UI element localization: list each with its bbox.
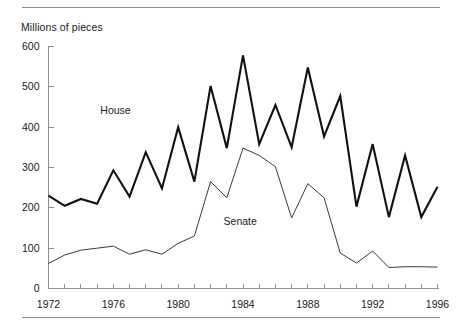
series-label-house: House [100,104,131,116]
y-tick-label-300: 300 [22,161,40,173]
x-tick-label-1976: 1976 [102,298,126,310]
y-tick-label-400: 400 [22,121,40,133]
x-tick-label-1984: 1984 [231,298,255,310]
x-tick-label-1988: 1988 [296,298,320,310]
y-tick-label-100: 100 [22,242,40,254]
y-tick-label-600: 600 [22,40,40,52]
series-label-senate: Senate [224,215,257,227]
y-tick-label-500: 500 [22,80,40,92]
series-line-house [49,55,438,217]
x-tick-label-1992: 1992 [361,298,385,310]
x-tick-label-1972: 1972 [37,298,61,310]
axes-group: 0100200300400500600197219761980198419881… [22,40,449,309]
y-tick-label-200: 200 [22,201,40,213]
x-tick-label-1996: 1996 [426,298,450,310]
line-chart-svg: 0100200300400500600197219761980198419881… [0,0,463,331]
x-tick-label-1980: 1980 [166,298,190,310]
series-group [49,55,438,267]
series-line-senate [49,148,438,267]
y-tick-label-0: 0 [34,282,40,294]
chart-page: Millions of pieces 010020030040050060019… [0,0,463,331]
series-annotations: HouseSenate [100,104,257,227]
